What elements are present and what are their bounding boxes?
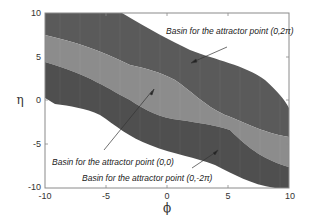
y-tick-label: -5 [33,139,41,149]
basin-chart: -10 -5 0 5 10 10 5 0 -5 -10 ϕ η Basin fo… [0,0,311,223]
annotation-basin-0-2pi: Basin for the attractor point (0,2π) [166,26,294,36]
annotation-basin-0-minus-2pi: Basin for the attractor point (0,-2π) [82,173,213,183]
x-tick-label: -5 [102,191,110,201]
x-axis-label: ϕ [163,201,171,215]
y-tick-label: 0 [36,95,41,105]
x-tick-label: -10 [38,191,51,201]
y-tick-label: 5 [36,52,41,62]
y-tick-label: 10 [31,8,41,18]
x-tick-label: 5 [225,191,230,201]
x-tick-label: 10 [285,191,295,201]
annotation-basin-0-0: Basin for the attractor point (0,0) [52,157,174,167]
y-tick-label: -10 [28,182,41,192]
y-axis-label: η [16,93,23,107]
x-tick-label: 0 [164,191,169,201]
